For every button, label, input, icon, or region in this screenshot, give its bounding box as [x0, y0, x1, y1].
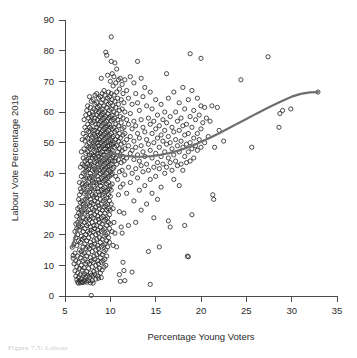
- x-tick-label: 30: [286, 305, 297, 316]
- y-tick-label: 0: [49, 290, 54, 301]
- y-tick-label: 90: [43, 14, 54, 25]
- y-tick-label: 40: [43, 168, 54, 179]
- y-tick-label: 70: [43, 76, 54, 87]
- x-tick-label: 10: [105, 305, 116, 316]
- x-tick-label: 35: [332, 305, 343, 316]
- x-tick-label: 25: [241, 305, 252, 316]
- x-tick-label: 20: [196, 305, 207, 316]
- x-axis-title: Percentage Young Voters: [147, 331, 254, 342]
- y-tick-label: 10: [43, 260, 54, 271]
- y-tick-label: 30: [43, 198, 54, 209]
- figure-caption-fragment: Figure 7.5: Labour: [8, 344, 68, 352]
- figure-container: 0102030405060708090 5101520253035 Percen…: [0, 0, 357, 358]
- y-tick-label: 80: [43, 45, 54, 56]
- x-tick-label: 15: [150, 305, 161, 316]
- y-axis-title: Labour Vote Percentage 2019: [9, 95, 20, 221]
- y-tick-label: 50: [43, 137, 54, 148]
- scatter-plot: 0102030405060708090 5101520253035 Percen…: [0, 0, 357, 358]
- x-tick-label: 5: [62, 305, 67, 316]
- y-tick-label: 20: [43, 229, 54, 240]
- y-tick-label: 60: [43, 106, 54, 117]
